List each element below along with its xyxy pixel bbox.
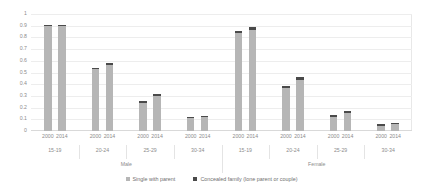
bar-segment-single-with-parent [44, 26, 52, 131]
legend-label: Single with parent [133, 176, 176, 182]
age-group-separator [126, 145, 127, 159]
x-axis-age-group-label: 25-29 [126, 147, 174, 153]
y-axis-tick-label: 0 [24, 128, 27, 133]
x-axis-age-group-label: 15-19 [31, 147, 79, 153]
legend-item[interactable]: Concealed family (lone parent or couple) [193, 176, 297, 182]
bar-stack [139, 101, 147, 131]
y-axis-tick-label: 0.6 [20, 58, 27, 63]
bar-segment-single-with-parent [282, 88, 290, 131]
x-axis-year-label: 2014 [145, 133, 169, 139]
legend-item[interactable]: Single with parent [126, 176, 176, 182]
y-axis-tick-label: 1 [24, 11, 27, 16]
x-axis-year-label: 2014 [383, 133, 407, 139]
bar-segment-single-with-parent [391, 124, 399, 131]
age-group-separator [364, 145, 365, 159]
x-axis-year-label: 2014 [288, 133, 312, 139]
age-group-separator [79, 145, 80, 159]
bar-segment-single-with-parent [187, 118, 195, 131]
y-axis-tick-label: 0.7 [20, 46, 27, 51]
bar-segment-single-with-parent [92, 69, 100, 131]
bar-stack [391, 123, 399, 131]
x-axis-age-group-label: 25-29 [317, 147, 365, 153]
bar-segment-single-with-parent [153, 96, 161, 131]
bar-segment-single-with-parent [296, 80, 304, 131]
bar-segment-single-with-parent [235, 33, 243, 131]
bar-segment-single-with-parent [344, 113, 352, 131]
bar-stack [344, 111, 352, 131]
x-axis-year-label: 2014 [97, 133, 121, 139]
legend-swatch-icon [193, 177, 197, 181]
legend-label: Concealed family (lone parent or couple) [200, 176, 297, 182]
bar-stack [92, 68, 100, 131]
bar-stack [58, 25, 66, 131]
bar-segment-single-with-parent [330, 117, 338, 131]
x-axis-age-group-label: 20-24 [79, 147, 127, 153]
x-axis-age-group-label: 30-34 [364, 147, 412, 153]
y-axis-tick-label: 0.3 [20, 93, 27, 98]
bar-segment-single-with-parent [106, 65, 114, 131]
y-axis-tick-label: 0.9 [20, 23, 27, 28]
bar-stack [201, 116, 209, 131]
bar-stack [282, 86, 290, 131]
sex-group-separator [222, 147, 223, 173]
x-axis-year-label: 2014 [50, 133, 74, 139]
bar-stack [44, 25, 52, 131]
bar-segment-single-with-parent [249, 30, 257, 131]
bar-segment-single-with-parent [377, 126, 385, 131]
y-axis-tick-label: 0.2 [20, 105, 27, 110]
bar-stack [153, 94, 161, 131]
bar-segment-single-with-parent [201, 117, 209, 131]
chart-legend: Single with parentConcealed family (lone… [0, 176, 423, 182]
y-axis-tick-label: 0.8 [20, 35, 27, 40]
bar-series-container [31, 14, 412, 131]
bar-stack [330, 115, 338, 131]
bar-segment-single-with-parent [58, 26, 66, 131]
x-axis-sex-group-label: Male [31, 161, 222, 167]
bar-stack [249, 27, 257, 131]
x-axis-year-label: 2014 [193, 133, 217, 139]
x-axis-year-label: 2014 [240, 133, 264, 139]
x-axis-age-group-label: 30-34 [174, 147, 222, 153]
bar-stack [377, 124, 385, 131]
bar-stack [235, 31, 243, 131]
x-axis-age-group-label: 20-24 [269, 147, 317, 153]
bar-segment-single-with-parent [139, 103, 147, 131]
y-axis-tick-label: 0.5 [20, 70, 27, 75]
x-axis-age-group-label: 15-19 [222, 147, 270, 153]
bar-stack [106, 63, 114, 131]
bar-stack [296, 77, 304, 131]
y-axis-tick-label: 0.4 [20, 82, 27, 87]
stacked-bar-chart: 00.10.20.30.40.50.60.70.80.91 2000201420… [0, 0, 423, 192]
y-axis-tick-label: 0.1 [20, 117, 27, 122]
age-group-separator [269, 145, 270, 159]
x-axis-year-label: 2014 [336, 133, 360, 139]
legend-swatch-icon [126, 177, 130, 181]
x-axis-sex-group-labels: MaleFemale [31, 161, 412, 173]
age-group-separator [317, 145, 318, 159]
x-axis-sex-group-label: Female [222, 161, 413, 167]
age-group-separator [174, 145, 175, 159]
bar-stack [187, 117, 195, 131]
plot-area: 00.10.20.30.40.50.60.70.80.91 [31, 14, 412, 131]
